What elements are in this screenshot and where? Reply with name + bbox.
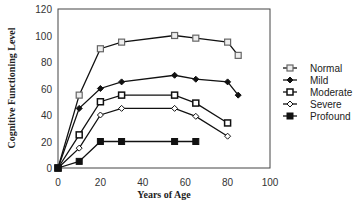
square-marker-icon [172, 139, 178, 145]
square-marker-icon [97, 139, 103, 145]
series-line [58, 108, 228, 168]
x-tick-label: 100 [262, 177, 279, 188]
square-marker-icon [97, 46, 103, 52]
series-profound [55, 139, 199, 172]
y-tick-label: 20 [41, 137, 53, 148]
y-tick-label: 0 [46, 163, 52, 174]
x-axis-label: Years of Age [137, 189, 191, 200]
series-normal [55, 33, 241, 172]
y-tick-label: 100 [35, 31, 52, 42]
x-tick-label: 20 [95, 177, 107, 188]
diamond-marker-icon [193, 113, 199, 119]
x-tick-label: 80 [222, 177, 234, 188]
series-line [58, 75, 238, 168]
square-marker-icon [119, 39, 125, 45]
square-marker-icon [76, 132, 82, 138]
x-axis-ticks: 020406080100 [55, 177, 279, 188]
diamond-marker-icon [119, 105, 125, 111]
legend-item-profound: Profound [283, 111, 351, 122]
legend-label: Mild [310, 75, 328, 86]
x-tick-label: 40 [137, 177, 149, 188]
square-marker-icon [76, 158, 82, 164]
square-marker-icon [193, 139, 199, 145]
square-marker-icon [235, 52, 241, 58]
square-marker-icon [225, 39, 231, 45]
legend-label: Profound [310, 111, 351, 122]
square-marker-icon [55, 165, 61, 171]
plot-frame [58, 9, 270, 168]
legend-item-mild: Mild [283, 75, 328, 86]
square-marker-icon [119, 92, 125, 98]
y-axis-label: Cognitive Functioning Level [6, 27, 17, 148]
legend-item-moderate: Moderate [283, 87, 353, 98]
diamond-marker-icon [287, 77, 293, 83]
series-line [58, 36, 238, 169]
square-marker-icon [287, 89, 293, 95]
x-tick-label: 60 [180, 177, 192, 188]
legend-label: Normal [310, 63, 342, 74]
diamond-marker-icon [225, 133, 231, 139]
diamond-marker-icon [119, 79, 125, 85]
square-marker-icon [172, 33, 178, 39]
legend-item-normal: Normal [283, 63, 342, 74]
line-chart: 020406080100120 020406080100 Cognitive F… [0, 0, 353, 206]
square-marker-icon [193, 35, 199, 41]
square-marker-icon [172, 92, 178, 98]
diamond-marker-icon [172, 105, 178, 111]
legend-label: Severe [310, 99, 342, 110]
square-marker-icon [225, 120, 231, 126]
square-marker-icon [76, 92, 82, 98]
square-marker-icon [287, 113, 293, 119]
y-tick-label: 80 [41, 57, 53, 68]
square-marker-icon [119, 139, 125, 145]
legend: NormalMildModerateSevereProfound [283, 63, 353, 122]
data-series [55, 33, 241, 172]
square-marker-icon [97, 99, 103, 105]
y-tick-label: 40 [41, 110, 53, 121]
y-tick-label: 120 [35, 4, 52, 15]
diamond-marker-icon [193, 76, 199, 82]
square-marker-icon [287, 65, 293, 71]
legend-label: Moderate [310, 87, 353, 98]
x-tick-label: 0 [55, 177, 61, 188]
square-marker-icon [193, 100, 199, 106]
diamond-marker-icon [287, 101, 293, 107]
legend-item-severe: Severe [283, 99, 342, 110]
y-tick-label: 60 [41, 84, 53, 95]
diamond-marker-icon [172, 72, 178, 78]
y-axis-ticks: 020406080100120 [35, 4, 52, 174]
